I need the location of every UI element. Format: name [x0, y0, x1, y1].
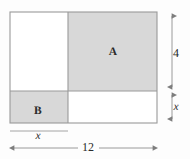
geometry-figure: A B 4 x x 12	[0, 0, 190, 159]
region-top-left	[10, 12, 68, 91]
dimension-label-height-x: x	[173, 102, 178, 114]
figure-canvas	[0, 0, 190, 159]
dimension-label-width-12: 12	[82, 141, 94, 153]
region-a-label: A	[109, 47, 118, 59]
region-bottom-right	[68, 91, 157, 123]
dimension-label-width-x: x	[35, 131, 40, 143]
dimension-label-height-4: 4	[173, 47, 179, 59]
region-b-label: B	[34, 106, 42, 118]
